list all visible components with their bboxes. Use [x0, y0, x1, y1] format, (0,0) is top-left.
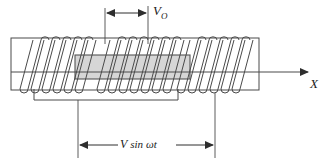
- vo-label-subscript: O: [161, 11, 168, 21]
- coil-turn: [196, 40, 209, 89]
- coil-turn: [31, 40, 44, 89]
- coil-turn: [50, 40, 63, 89]
- coil-turn: [232, 40, 245, 89]
- coil-turn: [207, 40, 220, 89]
- coil-turn: [221, 40, 234, 89]
- coil-turn: [53, 40, 66, 89]
- coil-turn: [61, 40, 74, 89]
- coil-turn: [240, 40, 253, 89]
- vo-label-main: V: [153, 3, 161, 18]
- circuit-wire: [34, 89, 178, 100]
- vo-label: VO: [153, 4, 167, 21]
- diagram-canvas: [0, 0, 333, 164]
- coil-turn: [42, 40, 55, 89]
- circuit-wire-path: [34, 89, 178, 100]
- coil-turn: [218, 40, 231, 89]
- coil-turn: [210, 40, 223, 89]
- source-label-v: V: [120, 137, 127, 151]
- coil-turn: [20, 40, 33, 89]
- physics-diagram-solenoid: VO X V sin ωt: [0, 0, 333, 164]
- coil-turn: [229, 40, 242, 89]
- source-label-sin: sin: [130, 138, 143, 150]
- coil-turn: [39, 40, 52, 89]
- coil-windings: [20, 37, 253, 93]
- x-axis-label: X: [310, 77, 318, 90]
- coil-turn: [199, 40, 212, 89]
- source-label: V sin ωt: [120, 138, 157, 150]
- coil-turn: [28, 40, 41, 89]
- source-label-omega-t: ωt: [146, 138, 157, 150]
